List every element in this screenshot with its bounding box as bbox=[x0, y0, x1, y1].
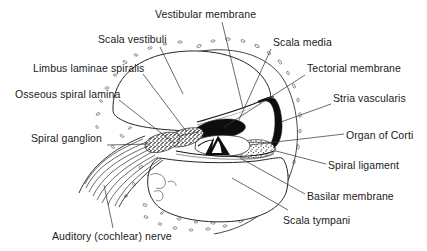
label-scala-vestibuli: Scala vestibuli bbox=[98, 33, 167, 45]
label-osseous-spiral-lamina: Osseous spiral lamina bbox=[15, 88, 120, 100]
label-vestibular-membrane: Vestibular membrane bbox=[155, 8, 256, 20]
organ-of-corti-structure bbox=[195, 135, 250, 156]
label-spiral-ganglion: Spiral ganglion bbox=[31, 132, 102, 144]
label-stria-vascularis: Stria vascularis bbox=[333, 92, 406, 104]
spiral-ganglion-mass bbox=[145, 132, 180, 152]
label-organ-of-corti: Organ of Corti bbox=[346, 129, 413, 141]
scala-tympani-chamber bbox=[148, 158, 288, 222]
cochlea-cross-section-diagram bbox=[0, 0, 427, 251]
label-tectorial-membrane: Tectorial membrane bbox=[307, 62, 401, 74]
figure-canvas: Vestibular membrane Scala vestibuli Limb… bbox=[0, 0, 427, 251]
label-basilar-membrane: Basilar membrane bbox=[307, 190, 394, 202]
label-scala-tympani: Scala tympani bbox=[283, 214, 350, 226]
label-auditory-cochlear-nerve: Auditory (cochlear) nerve bbox=[52, 230, 172, 242]
label-limbus-laminae-spiralis: Limbus laminae spiralis bbox=[33, 62, 144, 74]
label-scala-media: Scala media bbox=[273, 36, 332, 48]
label-spiral-ligament: Spiral ligament bbox=[328, 159, 399, 171]
